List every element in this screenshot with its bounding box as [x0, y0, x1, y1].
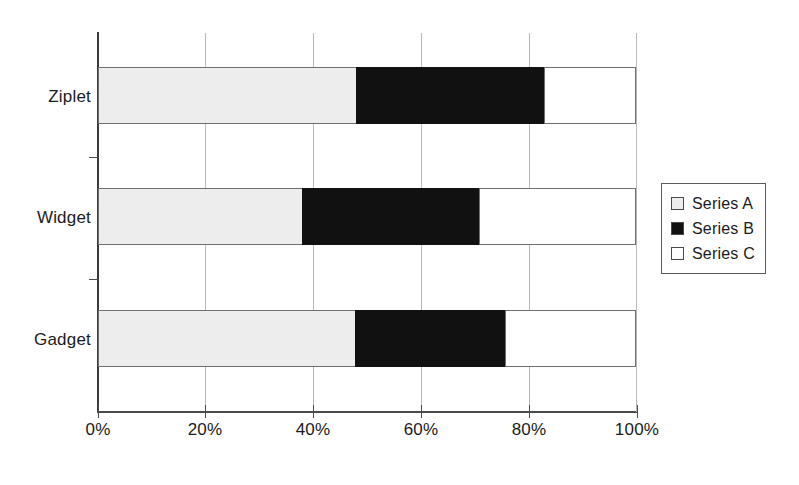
bar-segment-series-a[interactable]: [98, 310, 356, 367]
bar-segment-series-b[interactable]: [302, 188, 480, 245]
bar-segment-series-b[interactable]: [355, 310, 506, 367]
y-axis-tick: [89, 157, 98, 158]
x-axis-tick-0: [98, 405, 99, 418]
bar-segment-series-a[interactable]: [98, 67, 357, 124]
legend-swatch-icon-series-b: [671, 222, 684, 235]
plot-area: [98, 33, 637, 412]
x-axis-tick-label-100: 100%: [615, 420, 659, 440]
legend-swatch-icon-series-c: [671, 247, 684, 260]
chart-legend: Series A Series B Series C: [661, 183, 766, 274]
y-axis-label-gadget: Gadget: [34, 330, 91, 350]
bar-row[interactable]: [98, 310, 636, 367]
gridline-100: [636, 33, 637, 412]
y-axis-label-ziplet: Ziplet: [48, 87, 91, 107]
bar-row[interactable]: [98, 188, 636, 245]
legend-item-series-b[interactable]: Series B: [671, 216, 755, 241]
x-axis-tick-label-80: 80%: [512, 420, 547, 440]
x-axis-tick-100: [637, 405, 638, 418]
bar-row[interactable]: [98, 67, 636, 124]
bar-segment-series-c[interactable]: [544, 67, 636, 124]
legend-label-series-a: Series A: [692, 195, 753, 213]
x-axis-tick-60: [421, 405, 422, 418]
legend-item-series-c[interactable]: Series C: [671, 241, 755, 266]
legend-item-series-a[interactable]: Series A: [671, 191, 755, 216]
x-axis-tick-80: [529, 405, 530, 418]
x-axis-tick-label-40: 40%: [296, 420, 331, 440]
legend-label-series-c: Series C: [692, 245, 755, 263]
bar-segment-series-b[interactable]: [356, 67, 545, 124]
stacked-bar-chart: Ziplet Widget Gadget 0% 20% 40% 60% 80% …: [0, 0, 799, 485]
x-axis-tick-label-0: 0%: [86, 420, 111, 440]
x-axis-tick-40: [313, 405, 314, 418]
x-axis-tick-label-60: 60%: [404, 420, 439, 440]
legend-label-series-b: Series B: [692, 220, 754, 238]
bar-segment-series-c[interactable]: [479, 188, 636, 245]
x-axis-tick-20: [205, 405, 206, 418]
bar-segment-series-c[interactable]: [505, 310, 636, 367]
y-axis-tick: [89, 279, 98, 280]
y-axis-label-widget: Widget: [37, 208, 91, 228]
legend-swatch-icon-series-a: [671, 197, 684, 210]
x-axis-tick-label-20: 20%: [188, 420, 223, 440]
bar-segment-series-a[interactable]: [98, 188, 303, 245]
